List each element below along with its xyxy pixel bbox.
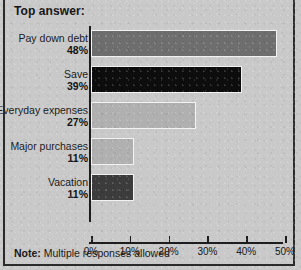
note-prefix: Note: [14,247,41,259]
x-axis-tick [91,236,93,243]
bar-category-label: Major purchases [0,140,88,152]
bar-value-label: 48% [0,44,88,56]
x-axis-tick [285,236,287,243]
bar-everyday-expenses [91,102,196,129]
x-axis-line [89,242,283,244]
frame-left-rule [3,0,5,266]
plot-area: Pay down debt48%Save39%Everyday expenses… [0,22,301,222]
chart-bar-row: Major purchases11% [0,138,301,165]
bar-category-label: Save [0,68,88,80]
bar-major-purchases [91,138,134,165]
x-axis-tick-label: 50% [265,246,301,257]
bar-vacation [91,174,134,201]
x-axis-tick-label: 30% [187,246,227,257]
bar-category-label: Pay down debt [0,32,88,44]
x-axis-tick [207,236,209,243]
x-axis-tick-label: 40% [226,246,266,257]
bar-category-label: Everyday expenses [0,104,88,116]
frame-right-rule [293,0,295,266]
x-axis-tick [169,236,171,243]
chart-figure: Top answer: Pay down debt48%Save39%Every… [0,0,301,270]
bar-value-label: 39% [0,80,88,92]
bar-pay-down-debt [91,30,277,57]
note-text: Multiple responses allowed [41,247,170,259]
chart-bar-row: Save39% [0,66,301,93]
chart-bar-row: Vacation11% [0,174,301,201]
y-axis-line [89,26,91,222]
bar-value-label: 27% [0,116,88,128]
bar-value-label: 11% [0,152,88,164]
bar-value-label: 11% [0,188,88,200]
chart-bar-row: Pay down debt48% [0,30,301,57]
chart-bar-row: Everyday expenses27% [0,102,301,129]
frame-bottom-rule [3,264,295,266]
chart-note: Note: Multiple responses allowed [14,247,170,259]
x-axis-tick [246,236,248,243]
bar-save [91,66,242,93]
x-axis-tick [130,236,132,243]
chart-title: Top answer: [14,4,85,18]
bar-category-label: Vacation [0,176,88,188]
